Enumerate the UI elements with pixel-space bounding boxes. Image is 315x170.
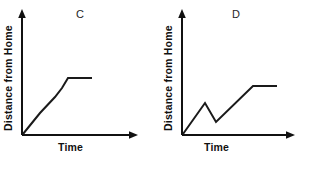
figure-root: C Time Distance from Home D Time Distanc… — [0, 0, 315, 170]
x-axis-label-c: Time — [58, 142, 83, 153]
x-axis-arrowhead-d — [286, 131, 295, 139]
graph-panel-d: D Time Distance from Home — [158, 0, 315, 170]
graph-d-svg — [158, 0, 315, 170]
y-axis-label-d: Distance from Home — [163, 25, 174, 131]
data-line-d — [183, 86, 277, 134]
y-axis-label-c: Distance from Home — [3, 25, 14, 131]
y-axis-arrowhead-d — [178, 9, 186, 18]
panel-label-c: C — [76, 9, 84, 20]
graph-panel-c: C Time Distance from Home — [0, 0, 157, 170]
x-axis-label-d: Time — [204, 142, 229, 153]
x-axis-arrowhead-c — [129, 131, 138, 139]
panel-label-d: D — [232, 9, 240, 20]
y-axis-arrowhead-c — [18, 9, 26, 18]
data-line-c — [23, 78, 92, 134]
